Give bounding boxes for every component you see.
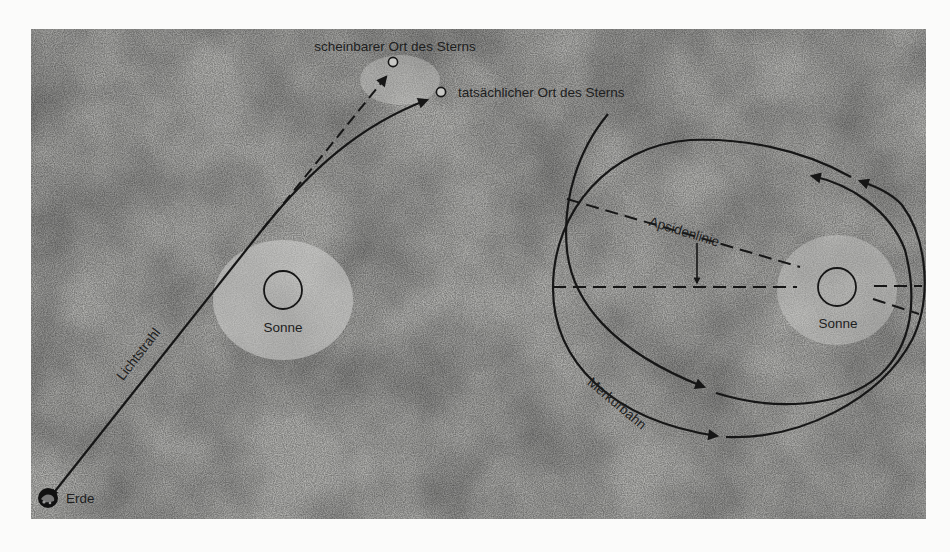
left-sun-label: Sonne xyxy=(263,320,302,335)
light-deflection-and-perihelion-diagram: scheinbarer Ort des Sterns tatsächlicher… xyxy=(0,0,950,552)
earth-icon xyxy=(38,488,58,508)
apparent-star-icon xyxy=(388,57,397,66)
earth-label: Erde xyxy=(66,491,95,506)
right-sun-label: Sonne xyxy=(818,316,857,331)
actual-star-icon xyxy=(436,87,445,96)
actual-star-label: tatsächlicher Ort des Sterns xyxy=(458,85,625,100)
diagram-panel xyxy=(31,29,926,519)
apparent-star-label: scheinbarer Ort des Sterns xyxy=(314,39,476,54)
